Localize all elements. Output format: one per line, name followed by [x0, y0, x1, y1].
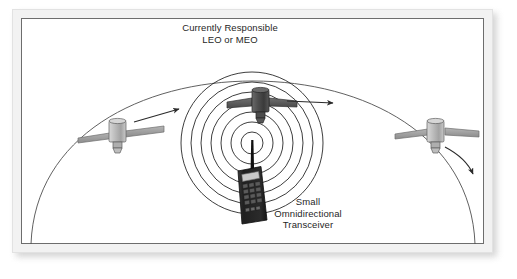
- satellite-title-line-1: Currently Responsible: [150, 22, 310, 34]
- arrow-left-satellite-path: [134, 109, 179, 122]
- transceiver-caption-line-1: Small: [248, 196, 368, 208]
- satellite-left: [78, 118, 164, 153]
- transceiver-caption-line-3: Transceiver: [248, 219, 368, 231]
- satellite-title-label: Currently Responsible LEO or MEO: [150, 22, 310, 45]
- antenna-icon: [251, 140, 255, 170]
- satellite-title-line-2: LEO or MEO: [150, 34, 310, 46]
- transceiver-caption-label: Small Omnidirectional Transceiver: [248, 196, 368, 231]
- figure-container: Currently Responsible LEO or MEO Small O…: [0, 0, 517, 279]
- transceiver-caption-line-2: Omnidirectional: [248, 208, 368, 220]
- arrow-right-satellite-path: [445, 147, 473, 174]
